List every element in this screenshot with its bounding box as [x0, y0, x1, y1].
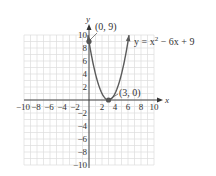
- x-tick-label: 4: [113, 102, 118, 112]
- x-tick-label: −6: [44, 102, 54, 112]
- y-tick-label: −10: [73, 160, 88, 170]
- parabola-graph: x y −10−8−6−4−2246810 −10−8−6−4−2246810 …: [0, 0, 216, 176]
- y-axis-label: y: [85, 14, 90, 24]
- y-tick-label: 2: [83, 82, 88, 92]
- x-axis-label: x: [164, 95, 169, 105]
- x-tick-label: −10: [16, 102, 31, 112]
- y-tick-label: −8: [77, 147, 87, 157]
- y-tick-label: −2: [77, 108, 87, 118]
- y-tick-label: 8: [83, 43, 88, 53]
- point-vertex: [106, 97, 111, 102]
- x-tick-label: 8: [139, 102, 144, 112]
- equation-rest: − 6x + 9: [158, 36, 194, 47]
- y-tick-label: 10: [78, 30, 88, 40]
- equation-label: y = x2 − 6x + 9: [134, 35, 194, 47]
- y-tick-label: −6: [77, 134, 87, 144]
- label-y-intercept: (0, 9): [95, 21, 117, 33]
- label-vertex: (3, 0): [119, 87, 141, 99]
- x-tick-label: −4: [57, 102, 67, 112]
- point-y-intercept: [86, 39, 91, 44]
- x-tick-labels: −10−8−6−4−2246810: [16, 102, 159, 112]
- x-tick-label: 10: [150, 102, 160, 112]
- y-tick-label: −4: [77, 121, 87, 131]
- equation-main: y = x: [134, 36, 155, 47]
- y-tick-label: 6: [83, 56, 88, 66]
- y-tick-label: 4: [83, 69, 88, 79]
- leader-line-intercept: [90, 33, 97, 40]
- x-tick-label: −8: [31, 102, 41, 112]
- y-axis-arrow-icon: [87, 24, 92, 30]
- x-tick-label: 6: [126, 102, 131, 112]
- x-tick-label: 2: [100, 102, 105, 112]
